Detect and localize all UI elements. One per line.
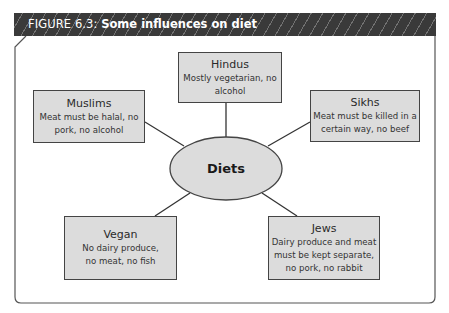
node-muslims: Muslims Meat must be halal, no pork, no … [33, 90, 145, 143]
node-title: Hindus [211, 58, 249, 72]
node-title: Vegan [103, 228, 137, 242]
node-vegan: Vegan No dairy produce, no meat, no fish [64, 216, 177, 280]
node-title: Muslims [67, 97, 112, 111]
figure-number: FIGURE 6.3: [28, 17, 98, 31]
node-text: Dairy produce and meat must be kept sepa… [270, 236, 378, 275]
figure-header: FIGURE 6.3: Some influences on diet [14, 13, 436, 36]
node-sikhs: Sikhs Meat must be killed in a certain w… [310, 90, 420, 142]
node-hindus: Hindus Mostly vegetarian, no alcohol [178, 52, 282, 103]
diet-influences-figure: FIGURE 6.3: Some influences on diet Diet… [0, 0, 449, 313]
node-text: No dairy produce, no meat, no fish [78, 242, 164, 268]
node-jews: Jews Dairy produce and meat must be kept… [268, 216, 380, 280]
node-title: Sikhs [350, 96, 379, 110]
node-title: Jews [312, 222, 337, 236]
figure-title: Some influences on diet [101, 17, 257, 31]
center-label: Diets [170, 137, 282, 200]
node-text: Meat must be halal, no pork, no alcohol [38, 111, 140, 137]
node-text: Mostly vegetarian, no alcohol [182, 72, 278, 98]
node-text: Meat must be killed in a certain way, no… [313, 110, 417, 136]
